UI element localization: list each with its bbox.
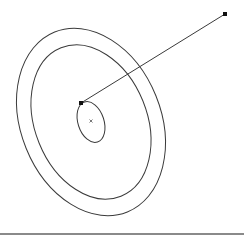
center-mark-icon	[90, 120, 93, 123]
inner-ellipse[interactable]	[72, 98, 110, 146]
diagram-canvas	[0, 0, 244, 239]
handle-inner[interactable]	[79, 101, 83, 105]
middle-ellipse[interactable]	[9, 27, 173, 217]
bottom-separator	[0, 233, 244, 235]
handle-outer[interactable]	[223, 12, 227, 16]
outer-ellipse[interactable]	[0, 6, 192, 238]
